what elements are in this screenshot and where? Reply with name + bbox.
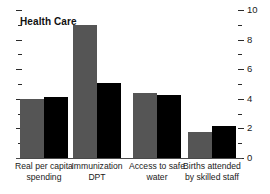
- bar: [133, 93, 157, 158]
- category-label: Immunization DPT: [63, 161, 131, 183]
- bar: [188, 132, 212, 158]
- category-labels: Real per capita spendingImmunization DPT…: [16, 161, 238, 194]
- bar: [20, 99, 44, 158]
- bar: [157, 95, 181, 158]
- x-axis-baseline: [16, 158, 242, 159]
- health-care-bar-chart: Health Care 0246810 Real per capita spen…: [0, 0, 270, 194]
- bar: [73, 25, 97, 158]
- category-label: Births attended by skilled staff: [178, 161, 246, 183]
- bar: [44, 97, 68, 158]
- bars-layer: [0, 0, 270, 158]
- bar: [212, 126, 236, 158]
- bar: [97, 83, 121, 158]
